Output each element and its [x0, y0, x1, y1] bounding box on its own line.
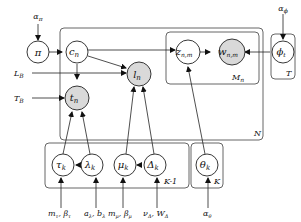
node-t-observed: tn [65, 86, 89, 110]
node-c: cn [66, 41, 88, 63]
plate-label-N: N [253, 129, 262, 138]
hp-lambda: aλ, bλ [84, 209, 105, 219]
node-w-observed: wn,m [218, 39, 245, 65]
node-l-observed: ln [127, 62, 151, 86]
node-phi: ϕt [272, 41, 294, 63]
node-tau: τk [52, 154, 74, 176]
hp-T-B: TB [14, 94, 24, 104]
hp-alpha-pi: απ [33, 12, 43, 22]
hp-delta: νΔ, WΔ [143, 209, 169, 219]
hp-tau: mτ, βτ [48, 209, 71, 219]
node-lambda: λk [81, 154, 103, 176]
hp-alpha-theta: αθ [203, 209, 211, 219]
plate-label-T: T [286, 69, 292, 78]
node-delta: Δk [144, 154, 166, 176]
graphical-model-diagram: N Mn T K-1 K π cn ln tn zn,m [0, 0, 301, 222]
hp-alpha-phi: αϕ [278, 4, 288, 15]
node-theta: θk [196, 154, 218, 176]
plate-label-K: K [213, 177, 221, 186]
svg-text:π: π [34, 47, 42, 58]
plate-label-K-1: K-1 [163, 177, 177, 186]
node-pi: π [27, 41, 49, 63]
node-mu: μk [114, 154, 136, 176]
plate-label-M: Mn [231, 73, 244, 83]
node-z: zn,m [175, 40, 200, 64]
hp-L-B: LB [13, 69, 24, 79]
hp-mu: mμ, βμ [108, 209, 132, 220]
